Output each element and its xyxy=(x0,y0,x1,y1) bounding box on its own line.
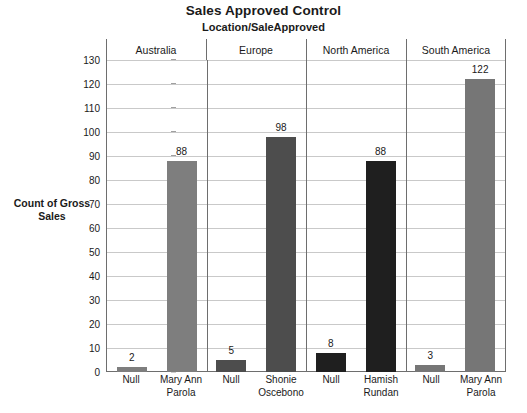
y-tick-label: 30 xyxy=(70,295,100,306)
chart-panel: 598 xyxy=(207,60,307,372)
y-tick-label: 20 xyxy=(70,319,100,330)
bar-slot: 88 xyxy=(356,60,406,372)
x-tick-label: Hamish Rundan xyxy=(356,374,406,412)
panel-header: South America xyxy=(406,40,506,60)
panel-header-band: AustraliaEuropeNorth AmericaSouth Americ… xyxy=(106,40,506,61)
x-tick-label: Null xyxy=(306,374,356,412)
bar-value-label: 2 xyxy=(129,352,135,363)
bar-slot: 88 xyxy=(157,60,207,372)
bar-slot: 98 xyxy=(256,60,306,372)
chart-panel: 288 xyxy=(107,60,207,372)
bar-value-label: 122 xyxy=(472,64,489,75)
bar-value-label: 88 xyxy=(176,146,187,157)
x-label-group: NullMary Ann Parola xyxy=(106,374,206,412)
bar-slot: 3 xyxy=(406,60,456,372)
panel-header-label: North America xyxy=(323,44,390,56)
bar-group: 288 xyxy=(107,60,207,372)
y-tick-label: 100 xyxy=(70,127,100,138)
bar[interactable]: 3 xyxy=(415,365,445,372)
y-tick-label: 120 xyxy=(70,79,100,90)
x-label-group: NullHamish Rundan xyxy=(306,374,406,412)
bar[interactable]: 5 xyxy=(216,360,246,372)
bar-value-label: 98 xyxy=(276,122,287,133)
bar-value-label: 5 xyxy=(229,345,235,356)
y-tick-label: 70 xyxy=(70,199,100,210)
bar-slot: 122 xyxy=(455,60,505,372)
x-tick-label: Mary Ann Parola xyxy=(456,374,506,412)
x-tick-label: Mary Ann Parola xyxy=(156,374,206,412)
bar[interactable]: 8 xyxy=(316,353,346,372)
panel-header-label: Australia xyxy=(136,44,177,56)
bar[interactable]: 88 xyxy=(366,161,396,372)
bar[interactable]: 2 xyxy=(117,367,147,372)
y-tick-label: 0 xyxy=(70,367,100,378)
bar-slot: 8 xyxy=(306,60,356,372)
bar-value-label: 3 xyxy=(428,350,434,361)
bar[interactable]: 98 xyxy=(266,137,296,372)
bar-value-label: 8 xyxy=(328,338,334,349)
bar-group: 598 xyxy=(207,60,307,372)
y-tick-label: 90 xyxy=(70,151,100,162)
panel-header-label: Europe xyxy=(239,44,273,56)
y-tick-label: 130 xyxy=(70,55,100,66)
y-tick-label: 60 xyxy=(70,223,100,234)
chart-panel: 3122 xyxy=(406,60,506,372)
panel-header: Australia xyxy=(106,40,206,60)
x-tick-label: Null xyxy=(406,374,456,412)
y-tick-label: 110 xyxy=(70,103,100,114)
y-tick-label: 50 xyxy=(70,247,100,258)
bar-slot: 5 xyxy=(207,60,257,372)
x-label-group: NullMary Ann Parola xyxy=(406,374,506,412)
panel-header-label: South America xyxy=(422,44,490,56)
bar-slot: 2 xyxy=(107,60,157,372)
bar[interactable]: 122 xyxy=(465,79,495,372)
x-tick-label: Null xyxy=(106,374,156,412)
chart-panel: 888 xyxy=(306,60,406,372)
x-label-group: NullShonie Oscebono xyxy=(206,374,306,412)
panel-header: North America xyxy=(306,40,406,60)
bar-group: 3122 xyxy=(406,60,506,372)
panel-container: 2885988883122 xyxy=(107,60,505,372)
x-tick-label: Shonie Oscebono xyxy=(256,374,306,412)
plot-area: 2885988883122 xyxy=(106,60,506,372)
y-axis-tick-labels: 1301201101009080706050403020100 xyxy=(70,60,100,372)
chart-subtitle: Location/SaleApproved xyxy=(0,21,527,33)
panel-header: Europe xyxy=(206,40,306,60)
y-tick-label: 40 xyxy=(70,271,100,282)
chart-title: Sales Approved Control xyxy=(0,3,527,18)
y-tick-label: 80 xyxy=(70,175,100,186)
x-tick-label: Null xyxy=(206,374,256,412)
x-axis-labels: NullMary Ann ParolaNullShonie OscebonoNu… xyxy=(106,374,506,412)
bar-value-label: 88 xyxy=(375,146,386,157)
bar-group: 888 xyxy=(306,60,406,372)
bar[interactable]: 88 xyxy=(167,161,197,372)
y-tick-label: 10 xyxy=(70,343,100,354)
